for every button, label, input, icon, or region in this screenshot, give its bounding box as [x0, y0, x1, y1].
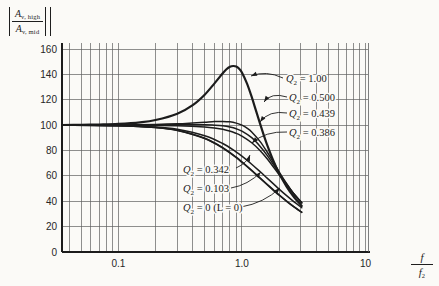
annotation-arrowhead	[251, 72, 257, 76]
y-tick-label-160: 160	[40, 44, 57, 55]
curve-q2-1.00	[62, 66, 302, 206]
y-tick-label-80: 80	[46, 145, 58, 156]
annotation-label-q2-1.00: Q2 = 1.00	[286, 73, 327, 87]
y-tick-label-40: 40	[46, 196, 58, 207]
abs-bar-left	[9, 7, 10, 36]
curve-q2-0.342	[62, 125, 302, 208]
x-label-denominator: f2	[411, 265, 433, 279]
curve-q2-0.439	[62, 125, 302, 203]
abs-bar-right	[45, 7, 51, 36]
annotation-arrow	[260, 112, 287, 122]
curve-q2-0.386	[62, 125, 302, 203]
numerator-subscript: v, high	[21, 13, 40, 20]
y-tick-label-140: 140	[40, 69, 57, 80]
annotation-label-q2-0.342: Q2 = 0.342	[183, 164, 229, 178]
figure-page: Q2 = 1.00Q2 = 0.500Q2 = 0.439Q2 = 0.386Q…	[0, 0, 439, 286]
y-axis-numerator: Av, high	[12, 7, 43, 22]
y-tick-label-60: 60	[46, 170, 58, 181]
x-label-numerator: f	[411, 251, 433, 265]
y-axis-label: Av, high Av, mid	[9, 7, 51, 36]
annotation-label-q2-00: Q2 = 0 (L = 0)	[183, 202, 243, 216]
x-tick-label-0.1: 0.1	[111, 258, 125, 269]
x-axis-label: f f2	[411, 251, 433, 279]
x-tick-label-1.0: 1.0	[235, 258, 249, 269]
y-tick-label-20: 20	[46, 221, 58, 232]
x-tick-label-10: 10	[360, 258, 372, 269]
curve-q2-0.500	[62, 121, 302, 203]
y-axis-fraction: Av, high Av, mid	[12, 7, 43, 36]
y-tick-label-120: 120	[40, 94, 57, 105]
y-tick-label-100: 100	[40, 120, 57, 131]
annotation-label-q2-0.103: Q2 = 0.103	[183, 183, 229, 197]
y-tick-label-0: 0	[51, 247, 57, 258]
annotation-arrowhead	[264, 96, 269, 102]
y-axis-denominator: Av, mid	[12, 22, 43, 36]
x-den-subscript: 2	[422, 272, 425, 279]
frequency-response-plot: Q2 = 1.00Q2 = 0.500Q2 = 0.439Q2 = 0.386Q…	[0, 0, 439, 286]
denominator-subscript: v, mid	[22, 28, 39, 35]
